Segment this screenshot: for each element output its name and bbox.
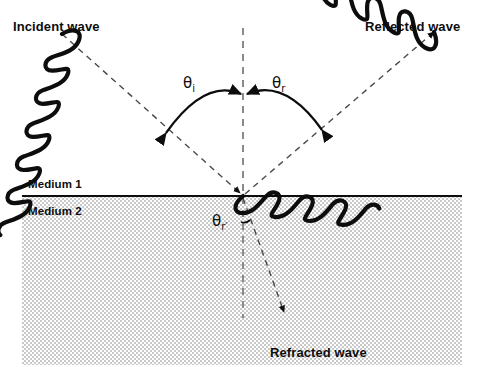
theta-sub-rp: r′ [221, 221, 227, 232]
theta-symbol-r: θ [272, 74, 281, 92]
label-medium-1: Medium 1 [28, 178, 82, 190]
reflected-waveform [240, 0, 442, 101]
theta-sub-i: i [192, 83, 195, 94]
theta-sub-r: r [281, 83, 285, 94]
angle-arc-reflection [247, 90, 322, 130]
angle-arc-incidence [166, 90, 241, 133]
angle-label-reflection: θr [272, 74, 285, 94]
label-reflected-wave: Reflected wave [365, 19, 460, 34]
theta-symbol-i: θ [183, 74, 192, 92]
wave-reflection-refraction-diagram [0, 0, 479, 386]
figure-canvas: Incident wave Reflected wave Refracted w… [0, 0, 479, 386]
reflected-ray [245, 32, 434, 194]
label-medium-2: Medium 2 [28, 205, 82, 217]
angle-label-incidence: θi [183, 74, 195, 94]
label-incident-wave: Incident wave [13, 19, 100, 34]
label-refracted-wave: Refracted wave [270, 345, 367, 360]
theta-symbol-rp: θ [212, 212, 221, 230]
incident-ray [62, 34, 240, 193]
angle-label-refraction: θr′ [212, 212, 228, 232]
